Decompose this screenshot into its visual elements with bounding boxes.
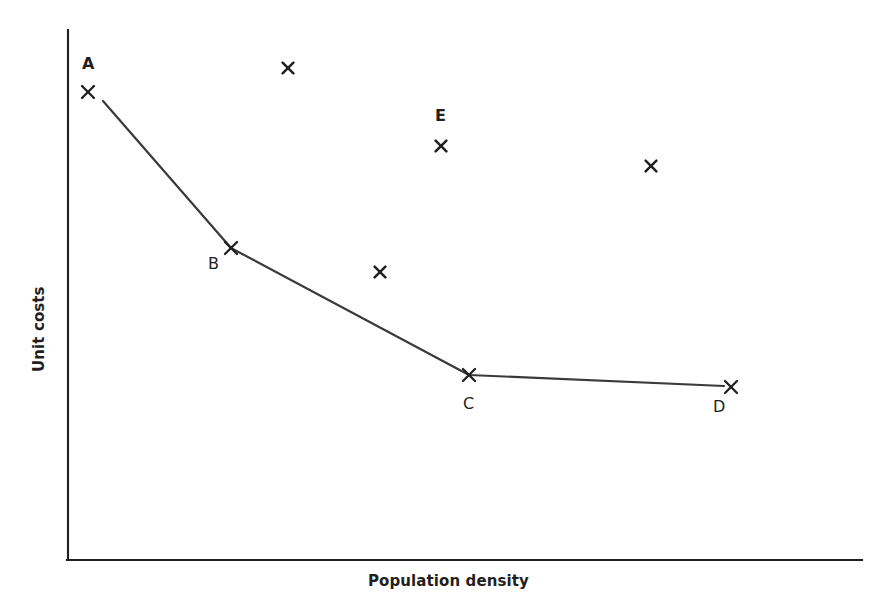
data-point-marker-x-icon — [225, 242, 237, 254]
y-axis-title: Unit costs — [30, 286, 48, 372]
point-label-b: B — [208, 256, 219, 272]
chart-figure: Unit costs Population density ABCDE — [0, 0, 888, 608]
x-axis-title: Population density — [368, 572, 529, 590]
point-label-d: D — [713, 399, 725, 415]
point-label-e: E — [435, 108, 446, 124]
chart-plot-area — [0, 0, 888, 608]
data-point-marker-x-icon — [725, 381, 737, 393]
data-point-marker-x-icon — [436, 141, 447, 152]
data-point-marker-x-icon — [283, 63, 294, 74]
data-point-marker-x-icon — [82, 86, 94, 98]
data-point-marker-x-icon — [646, 161, 657, 172]
data-point-marker-x-icon — [375, 267, 386, 278]
point-label-a: A — [82, 56, 94, 72]
point-label-c: C — [463, 396, 474, 412]
frontier-line — [103, 101, 724, 386]
